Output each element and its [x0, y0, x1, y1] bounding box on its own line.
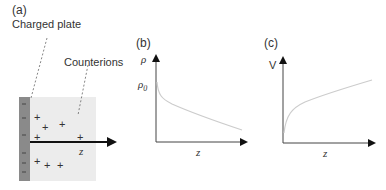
potential-curve — [284, 80, 372, 133]
rho-axis-label: ρ — [141, 53, 146, 65]
counterion: + — [34, 155, 40, 167]
panel-c-label: (c) — [264, 36, 278, 50]
rho-curve — [157, 82, 242, 130]
charged-plate — [19, 97, 30, 181]
counterion: + — [77, 131, 83, 143]
panel-a-label: (a) — [12, 3, 27, 17]
counterions-label: Counterions — [64, 56, 123, 68]
counterion: + — [34, 131, 40, 143]
panel-b-z-label: z — [196, 146, 200, 158]
charged-plate-label: Charged plate — [12, 18, 81, 30]
panel-b-graphic — [156, 56, 246, 142]
counterion: + — [34, 111, 40, 123]
rho0-tick-label: ρ0 — [138, 78, 147, 93]
counterion: + — [59, 118, 65, 130]
panel-b-label: (b) — [136, 36, 151, 50]
counterion: + — [44, 159, 50, 171]
panel-a-z-label: z — [79, 145, 83, 157]
counterion: + — [42, 121, 48, 133]
counterion: + — [57, 159, 63, 171]
panel-c-graphic — [283, 58, 374, 143]
panel-c-z-label: z — [323, 147, 327, 159]
v-axis-label: V — [269, 59, 276, 71]
leader-line-plate — [31, 38, 47, 98]
